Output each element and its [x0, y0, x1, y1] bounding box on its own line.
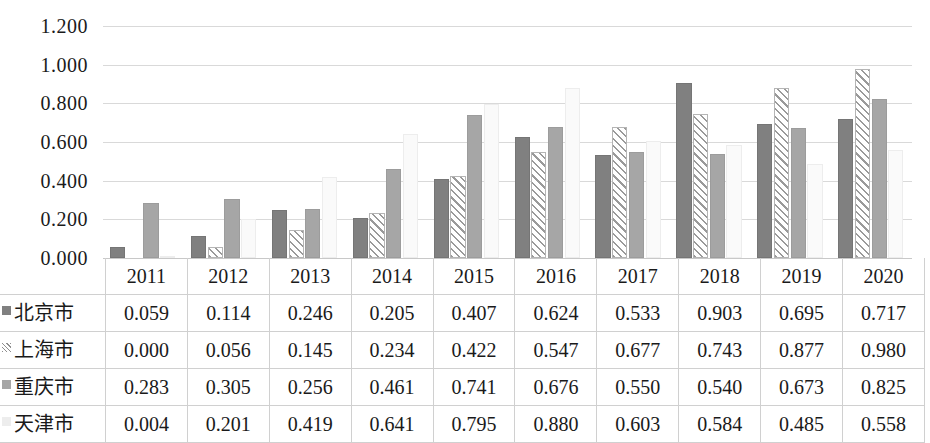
- bar-上海市-2017: [612, 127, 627, 258]
- bar-上海市-2019: [774, 88, 789, 258]
- table-cell: 0.533: [597, 295, 679, 332]
- table-cell: 0.205: [351, 295, 433, 332]
- bar-天津市-2014: [403, 134, 418, 258]
- table-cell: 0.201: [187, 406, 269, 443]
- y-axis-tick-label: 0.800: [41, 93, 89, 113]
- table-cell: 0.256: [269, 369, 351, 406]
- table-cell: 0.059: [106, 295, 188, 332]
- table-cell: 0.641: [351, 406, 433, 443]
- table-row: 重庆市0.2830.3050.2560.4610.7410.6760.5500.…: [0, 369, 924, 406]
- bar-北京市-2014: [353, 218, 368, 258]
- legend-item-上海市: 上海市: [0, 332, 106, 369]
- bar-上海市-2018: [693, 114, 708, 258]
- table-cell: 0.114: [187, 295, 269, 332]
- legend-label: 重庆市: [14, 377, 74, 397]
- legend-swatch-icon: [2, 306, 11, 315]
- bar-重庆市-2016: [548, 127, 563, 258]
- table-cell: 0.461: [351, 369, 433, 406]
- table-cell: 0.980: [843, 332, 925, 369]
- bar-上海市-2013: [289, 230, 304, 258]
- bar-北京市-2019: [757, 124, 772, 258]
- bar-group-2016: [508, 26, 589, 258]
- table-cell: 0.677: [597, 332, 679, 369]
- bar-group-2018: [669, 26, 750, 258]
- legend-swatch-icon: [2, 380, 11, 389]
- bar-重庆市-2014: [386, 169, 401, 258]
- table-cell: 0.000: [106, 332, 188, 369]
- bar-group-2012: [184, 26, 265, 258]
- table-cell: 0.234: [351, 332, 433, 369]
- plot-area: [103, 26, 912, 258]
- bar-上海市-2012: [208, 247, 223, 258]
- table-cell: 0.695: [761, 295, 843, 332]
- x-axis-label-2011: 2011: [106, 258, 188, 295]
- bar-重庆市-2020: [872, 99, 887, 259]
- x-axis-label-2014: 2014: [351, 258, 433, 295]
- bar-天津市-2020: [888, 150, 903, 258]
- table-cell: 0.056: [187, 332, 269, 369]
- y-axis: 1.2001.0000.8000.6000.4000.2000.000: [0, 26, 98, 258]
- bar-重庆市-2017: [629, 152, 644, 258]
- bar-group-2015: [427, 26, 508, 258]
- legend-swatch-icon: [2, 417, 11, 426]
- bar-重庆市-2018: [710, 154, 725, 258]
- table-row: 上海市0.0000.0560.1450.2340.4220.5470.6770.…: [0, 332, 924, 369]
- bar-北京市-2011: [110, 247, 125, 258]
- bar-group-2017: [588, 26, 669, 258]
- bars-layer: [103, 26, 912, 258]
- bar-group-2013: [265, 26, 346, 258]
- table-cell: 0.903: [679, 295, 761, 332]
- table-cell: 0.741: [433, 369, 515, 406]
- y-axis-tick-label: 0.600: [41, 132, 89, 152]
- bar-天津市-2013: [322, 177, 337, 258]
- table-cell: 0.547: [515, 332, 597, 369]
- legend-item-天津市: 天津市: [0, 406, 106, 443]
- bar-重庆市-2013: [305, 209, 320, 258]
- bar-北京市-2016: [515, 137, 530, 258]
- bar-天津市-2012: [241, 219, 256, 258]
- bar-重庆市-2015: [467, 115, 482, 258]
- table-cell: 0.305: [187, 369, 269, 406]
- x-axis-label-2017: 2017: [597, 258, 679, 295]
- table-cell: 0.004: [106, 406, 188, 443]
- legend-label: 北京市: [14, 303, 74, 323]
- bar-北京市-2017: [595, 155, 610, 258]
- table-cell: 0.550: [597, 369, 679, 406]
- legend-swatch-icon: [2, 343, 11, 352]
- table-cell: 0.558: [843, 406, 925, 443]
- bar-重庆市-2012: [224, 199, 239, 258]
- x-axis-label-2012: 2012: [187, 258, 269, 295]
- data-table: 2011201220132014201520162017201820192020…: [0, 258, 925, 443]
- x-axis-label-2015: 2015: [433, 258, 515, 295]
- bar-group-2011: [103, 26, 184, 258]
- x-axis-label-2020: 2020: [843, 258, 925, 295]
- legend-label: 天津市: [14, 414, 74, 434]
- x-axis-label-2018: 2018: [679, 258, 761, 295]
- table-header-row: 2011201220132014201520162017201820192020: [0, 258, 924, 295]
- bar-天津市-2019: [807, 164, 822, 258]
- table-cell: 0.743: [679, 332, 761, 369]
- x-axis-label-2019: 2019: [761, 258, 843, 295]
- bar-group-2019: [750, 26, 831, 258]
- table-cell: 0.676: [515, 369, 597, 406]
- y-axis-tick-label: 1.200: [41, 16, 89, 36]
- bar-天津市-2017: [646, 141, 661, 258]
- bar-重庆市-2011: [143, 203, 158, 258]
- table-cell: 0.422: [433, 332, 515, 369]
- bar-上海市-2016: [531, 152, 546, 258]
- bar-北京市-2013: [272, 210, 287, 258]
- table-cell: 0.419: [269, 406, 351, 443]
- table-cell: 0.877: [761, 332, 843, 369]
- bar-北京市-2018: [676, 83, 691, 258]
- table-cell: 0.880: [515, 406, 597, 443]
- table-cell: 0.246: [269, 295, 351, 332]
- bar-chart-with-data-table: 1.2001.0000.8000.6000.4000.2000.000 2011…: [0, 0, 930, 443]
- bar-上海市-2015: [450, 176, 465, 258]
- table-cell: 0.603: [597, 406, 679, 443]
- x-axis-label-2013: 2013: [269, 258, 351, 295]
- table-cell: 0.485: [761, 406, 843, 443]
- table-row: 天津市0.0040.2010.4190.6410.7950.8800.6030.…: [0, 406, 924, 443]
- y-axis-tick-label: 0.400: [41, 171, 89, 191]
- bar-天津市-2018: [726, 145, 741, 258]
- table-row: 北京市0.0590.1140.2460.2050.4070.6240.5330.…: [0, 295, 924, 332]
